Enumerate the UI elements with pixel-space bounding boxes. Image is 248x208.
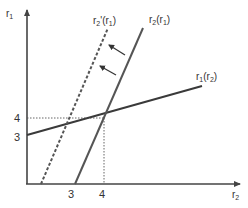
y-tick-label-4: 4 (14, 112, 20, 124)
x-tick-label-3: 3 (68, 188, 74, 200)
r1-of-r2-label: r1(r2) (196, 71, 217, 83)
shift-arrow-upper (109, 45, 125, 55)
y-axis-label: r1 (6, 8, 13, 20)
shift-arrow-lower (100, 66, 116, 75)
r2-prime-of-r1-line (41, 28, 108, 184)
r2-prime-of-r1-label: r2'(r1) (93, 15, 116, 27)
x-axis-label: r2 (232, 189, 239, 201)
y-tick-label-3: 3 (14, 131, 20, 143)
best-response-diagram: r1 r2 4 3 3 4 r2'(r1) r2(r1) r1(r2) (0, 0, 248, 208)
x-tick-label-4: 4 (99, 188, 105, 200)
r2-of-r1-label: r2(r1) (149, 14, 170, 26)
